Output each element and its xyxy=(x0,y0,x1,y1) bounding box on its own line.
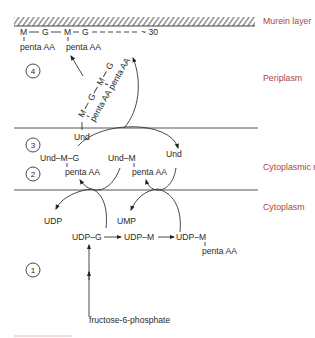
svg-text:penta AA: penta AA xyxy=(106,56,132,91)
step-1-marker: 1 xyxy=(26,263,40,277)
step-2-marker: 2 xyxy=(26,167,40,181)
svg-text:penta AA: penta AA xyxy=(65,167,100,177)
step-3-marker: 3 xyxy=(26,138,40,152)
svg-text:M: M xyxy=(76,108,88,119)
svg-text:penta AA: penta AA xyxy=(87,88,113,123)
murein-layer-band xyxy=(14,17,255,26)
svg-text:G: G xyxy=(86,91,98,102)
membrane-intermediates: Und–M–G penta AA Und–M penta AA Und xyxy=(40,149,182,177)
cytoplasm-intermediates: UDP UMP UDP–G UDP–M UDP–M penta AA xyxy=(44,216,237,256)
svg-text:2: 2 xyxy=(31,170,36,179)
periplasm-und: Und xyxy=(74,132,90,142)
svg-text:penta AA: penta AA xyxy=(202,246,237,256)
svg-text:M: M xyxy=(64,27,71,37)
label-cytoplasm: Cytoplasm xyxy=(263,202,305,212)
svg-text:Und: Und xyxy=(166,149,182,159)
svg-text:G: G xyxy=(82,27,89,37)
svg-text:M: M xyxy=(95,76,107,87)
label-periplasm: Periplasm xyxy=(263,73,302,83)
svg-text:penta AA: penta AA xyxy=(132,167,167,177)
svg-text:G: G xyxy=(42,27,49,37)
svg-text:UDP: UDP xyxy=(44,216,62,226)
label-cytoplasmic-membrane: Cytoplasmic membrane xyxy=(263,162,315,172)
transfer-arrow-to-murein xyxy=(71,56,83,76)
svg-text:Und–M: Und–M xyxy=(108,153,136,163)
periplasm-chain: M G M G penta AA penta AA xyxy=(76,50,132,125)
svg-text:penta AA: penta AA xyxy=(20,42,55,52)
svg-text:penta AA: penta AA xyxy=(66,42,101,52)
svg-text:G: G xyxy=(104,60,116,71)
svg-text:1: 1 xyxy=(31,266,36,275)
svg-text:Und–M–G: Und–M–G xyxy=(40,153,79,163)
svg-text:UDP–M: UDP–M xyxy=(124,232,154,242)
svg-text:UMP: UMP xyxy=(117,216,136,226)
svg-text:UDP–M: UDP–M xyxy=(176,232,206,242)
svg-text:4: 4 xyxy=(31,67,36,76)
svg-text:3: 3 xyxy=(31,141,36,150)
svg-text:~ 30: ~ 30 xyxy=(141,27,158,37)
svg-text:UDP–G: UDP–G xyxy=(72,232,102,242)
svg-text:M: M xyxy=(20,27,27,37)
murein-chain: M G M G ~ 30 penta AA penta AA xyxy=(20,27,158,52)
label-murein-layer: Murein layer xyxy=(263,16,311,26)
step-4-marker: 4 xyxy=(26,64,40,78)
peptidoglycan-synthesis-diagram: Murein layer Periplasm Cytoplasmic membr… xyxy=(0,0,315,338)
fructose-6-phosphate: fructose-6-phosphate xyxy=(89,315,170,325)
